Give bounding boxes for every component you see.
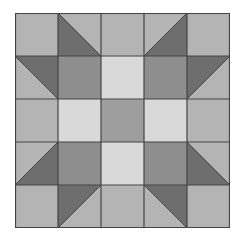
square-patch-r2c2	[101, 99, 144, 142]
square-patch-r2c3	[144, 99, 187, 142]
square-patch-r1c1	[58, 56, 101, 99]
square-patch-r3c1	[58, 142, 101, 185]
square-patch-r4c4	[187, 185, 230, 228]
square-patch-r4c2	[101, 185, 144, 228]
square-patch-r2c4	[187, 99, 230, 142]
square-patch-r0c4	[187, 13, 230, 56]
square-patch-r1c3	[144, 56, 187, 99]
half-square-triangle-r3c0	[15, 142, 58, 185]
square-patch-r3c2	[101, 142, 144, 185]
half-square-triangle-r0c1	[58, 13, 101, 56]
square-patch-r4c0	[15, 185, 58, 228]
half-square-triangle-r1c4	[187, 56, 230, 99]
half-square-triangle-r4c3	[144, 185, 187, 228]
square-patch-r2c1	[58, 99, 101, 142]
half-square-triangle-r3c4	[187, 142, 230, 185]
quilt-diagram-canvas	[0, 0, 245, 247]
square-patch-r0c2	[101, 13, 144, 56]
quilt-block	[15, 13, 230, 228]
half-square-triangle-r0c3	[144, 13, 187, 56]
square-patch-r0c0	[15, 13, 58, 56]
square-patch-r3c3	[144, 142, 187, 185]
half-square-triangle-r4c1	[58, 185, 101, 228]
quilt-svg	[15, 13, 230, 228]
square-patch-r1c2	[101, 56, 144, 99]
square-patch-r2c0	[15, 99, 58, 142]
half-square-triangle-r1c0	[15, 56, 58, 99]
